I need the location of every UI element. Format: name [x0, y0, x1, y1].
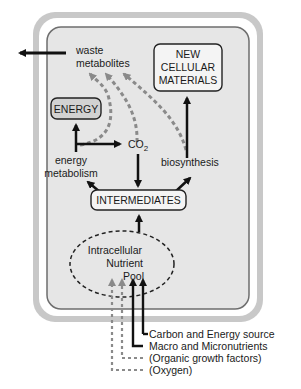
new-cellular-materials-box: NEW CELLULAR MATERIALS	[154, 44, 222, 91]
input-oxygen: (Oxygen)	[149, 364, 192, 376]
cell-metabolism-diagram: waste metabolites NEW CELLULAR MATERIALS…	[0, 0, 301, 389]
input-carbon-energy-source: Carbon and Energy source	[149, 328, 275, 340]
input-organic-growth-factors: (Organic growth factors)	[149, 352, 262, 364]
energy-metabolism-label-line2: metabolism	[44, 167, 98, 179]
svg-text:INTERMEDIATES: INTERMEDIATES	[96, 194, 180, 206]
waste-metabolites-label-line2: metabolites	[76, 57, 130, 69]
svg-text:MATERIALS: MATERIALS	[159, 74, 218, 86]
svg-text:ENERGY: ENERGY	[54, 103, 98, 115]
biosynthesis-label: biosynthesis	[161, 156, 219, 168]
svg-text:Nutrient: Nutrient	[106, 257, 143, 269]
waste-metabolites-label: waste	[75, 44, 104, 56]
svg-text:NEW: NEW	[176, 48, 201, 60]
intermediates-box: INTERMEDIATES	[91, 190, 186, 210]
svg-text:CELLULAR: CELLULAR	[161, 61, 216, 73]
svg-text:Intracellular: Intracellular	[88, 244, 143, 256]
input-macro-micronutrients: Macro and Micronutrients	[149, 340, 267, 352]
energy-metabolism-label: energy	[55, 154, 88, 166]
energy-box: ENERGY	[51, 98, 101, 119]
